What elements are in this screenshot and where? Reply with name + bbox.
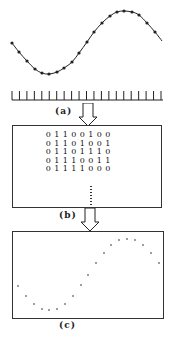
reconstructed-dot bbox=[48, 309, 50, 311]
panel-c-label: (c) bbox=[59, 320, 76, 330]
reconstructed-dot bbox=[33, 303, 35, 305]
reconstructed-dot bbox=[56, 308, 58, 310]
reconstructed-dot bbox=[95, 262, 97, 264]
reconstructed-dot bbox=[103, 252, 105, 254]
reconstructed-dot bbox=[110, 244, 112, 246]
reconstructed-dot bbox=[150, 252, 152, 254]
reconstructed-dot bbox=[41, 308, 43, 310]
panel-c-reconstructed-samples bbox=[0, 0, 173, 346]
reconstructed-dot bbox=[158, 262, 160, 264]
reconstructed-dot bbox=[64, 303, 66, 305]
reconstructed-dot bbox=[80, 284, 82, 286]
reconstructed-dot bbox=[87, 274, 89, 276]
reconstructed-dot bbox=[142, 244, 144, 246]
reconstructed-dot bbox=[25, 295, 27, 297]
reconstructed-dot bbox=[17, 285, 19, 287]
reconstructed-dots bbox=[17, 238, 160, 311]
figure: (a) 011001000110100101101110011100110111… bbox=[0, 0, 173, 346]
reconstructed-dot bbox=[126, 238, 128, 240]
reconstructed-dot bbox=[118, 239, 120, 241]
reconstructed-dot bbox=[72, 295, 74, 297]
reconstructed-dot bbox=[134, 239, 136, 241]
